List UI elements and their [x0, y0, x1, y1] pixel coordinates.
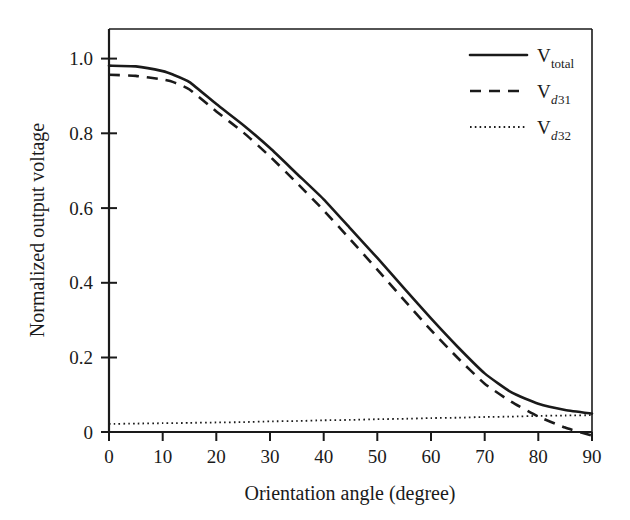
legend-label-v-total-main: V	[537, 45, 551, 66]
series-line-v-d31	[109, 75, 592, 436]
y-tick-label: 0.2	[69, 347, 93, 368]
x-tick-labels: 0 10 20 30 40 50 60 70 80 90	[104, 446, 601, 467]
x-tick-label: 80	[529, 446, 548, 467]
x-axis-title: Orientation angle (degree)	[244, 482, 455, 505]
chart-figure: 1.0 0.8 0.6 0.4 0.2 0 0 10 20 30 40	[0, 0, 630, 520]
legend: V total V d 31 V d 32	[470, 45, 574, 143]
y-tick-label: 1.0	[69, 48, 93, 69]
data-series-group	[109, 66, 592, 436]
y-tick-label: 0.4	[69, 272, 93, 293]
x-tick-label: 50	[368, 446, 387, 467]
x-tick-label: 60	[422, 446, 441, 467]
legend-label-v-d31-sub-italic: d	[551, 92, 558, 107]
legend-label-v-total-sub: total	[551, 56, 574, 71]
y-tick-label: 0	[84, 422, 94, 443]
series-line-v-d32	[109, 415, 592, 424]
legend-label-v-d32-main: V	[537, 117, 551, 138]
x-tick-label: 30	[261, 446, 280, 467]
x-tick-label: 90	[583, 446, 602, 467]
y-tick-labels: 1.0 0.8 0.6 0.4 0.2 0	[69, 48, 93, 443]
legend-label-v-d32-sub-italic: d	[551, 128, 558, 143]
legend-label-v-d32-sub: 32	[558, 128, 571, 143]
x-tick-label: 10	[153, 446, 172, 467]
legend-label-v-d31-main: V	[537, 81, 551, 102]
legend-label-v-d31-sub: 31	[558, 92, 571, 107]
y-tick-label: 0.6	[69, 198, 93, 219]
x-tick-label: 20	[207, 446, 226, 467]
y-axis-title: Normalized output voltage	[26, 123, 49, 338]
y-tick-label: 0.8	[69, 123, 93, 144]
series-line-v-total	[109, 66, 592, 414]
x-tick-label: 70	[475, 446, 494, 467]
x-tick-label: 0	[104, 446, 114, 467]
x-tick-label: 40	[314, 446, 333, 467]
plot-canvas: 1.0 0.8 0.6 0.4 0.2 0 0 10 20 30 40	[0, 0, 630, 520]
